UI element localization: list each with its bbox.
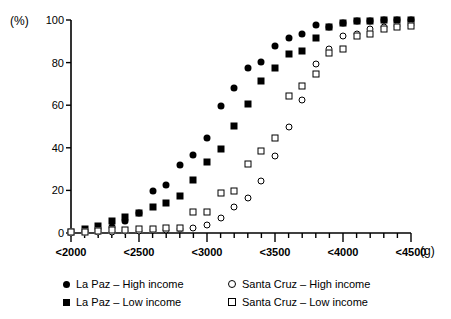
- data-point: [176, 192, 183, 199]
- data-point: [163, 200, 170, 207]
- data-point: [258, 177, 265, 184]
- data-point: [244, 101, 251, 108]
- plot-axes: [0, 0, 451, 319]
- data-point: [367, 18, 374, 25]
- data-point: [231, 85, 238, 92]
- data-point: [340, 20, 347, 27]
- data-point: [176, 224, 183, 231]
- data-point: [353, 32, 360, 39]
- data-point: [217, 103, 224, 110]
- data-point: [163, 182, 170, 189]
- data-point: [122, 226, 129, 233]
- x-tick-label-lt4500: <4500: [396, 246, 427, 258]
- legend-item-3[interactable]: Santa Cruz – Low income: [228, 296, 368, 308]
- data-point: [149, 187, 156, 194]
- data-point: [312, 35, 319, 42]
- open-square-icon: [228, 298, 236, 306]
- data-point: [244, 194, 251, 201]
- data-point: [326, 50, 333, 57]
- data-point: [299, 96, 306, 103]
- filled-circle-icon: [63, 281, 70, 288]
- data-point: [326, 24, 333, 31]
- data-point: [244, 64, 251, 71]
- filled-square-icon: [63, 299, 70, 306]
- data-point: [272, 42, 279, 49]
- legend-item-label: La Paz – Low income: [76, 296, 181, 308]
- data-point: [136, 226, 143, 233]
- legend-item-1[interactable]: La Paz – Low income: [63, 296, 181, 308]
- data-point: [312, 60, 319, 67]
- y-tick-label-60: 60: [40, 99, 64, 111]
- y-tick-label-0: 0: [40, 227, 64, 239]
- data-point: [108, 218, 115, 225]
- y-tick-label-100: 100: [40, 14, 64, 26]
- data-point: [231, 187, 238, 194]
- legend-item-2[interactable]: Santa Cruz – High income: [228, 278, 370, 290]
- data-point: [163, 225, 170, 232]
- legend-item-label: Santa Cruz – High income: [242, 278, 370, 290]
- data-point: [149, 225, 156, 232]
- data-point: [285, 92, 292, 99]
- data-point: [285, 51, 292, 58]
- data-point: [204, 135, 211, 142]
- data-point: [408, 23, 415, 30]
- data-point: [367, 30, 374, 37]
- legend-item-label: Santa Cruz – Low income: [242, 296, 368, 308]
- legend-item-0[interactable]: La Paz – High income: [63, 278, 184, 290]
- data-point: [176, 161, 183, 168]
- data-point: [353, 18, 360, 25]
- data-point: [217, 189, 224, 196]
- data-point: [272, 135, 279, 142]
- data-point: [204, 158, 211, 165]
- data-point: [136, 209, 143, 216]
- x-tick-label-lt2000: <2000: [56, 246, 87, 258]
- data-point: [340, 32, 347, 39]
- data-point: [394, 24, 401, 31]
- data-point: [299, 83, 306, 90]
- data-point: [285, 123, 292, 130]
- x-tick-label-lt2500: <2500: [124, 246, 155, 258]
- chart-container: (%) (g) 020406080100 <2000<2500<3000<350…: [0, 0, 451, 319]
- data-point: [190, 152, 197, 159]
- data-point: [380, 25, 387, 32]
- data-point: [95, 227, 102, 234]
- data-point: [272, 153, 279, 160]
- y-tick-label-80: 80: [40, 57, 64, 69]
- data-point: [108, 227, 115, 234]
- data-point: [217, 214, 224, 221]
- data-point: [204, 221, 211, 228]
- data-point: [190, 209, 197, 216]
- data-point: [81, 228, 88, 235]
- data-point: [68, 229, 75, 236]
- data-point: [231, 123, 238, 130]
- data-point: [190, 224, 197, 231]
- x-tick-label-lt3500: <3500: [260, 246, 291, 258]
- data-point: [285, 35, 292, 42]
- data-point: [231, 204, 238, 211]
- data-point: [258, 58, 265, 65]
- data-point: [312, 71, 319, 78]
- data-point: [190, 176, 197, 183]
- data-point: [299, 47, 306, 54]
- data-point: [244, 161, 251, 168]
- data-point: [122, 214, 129, 221]
- data-point: [299, 30, 306, 37]
- data-point: [149, 204, 156, 211]
- data-point: [340, 45, 347, 52]
- x-tick-label-lt4000: <4000: [328, 246, 359, 258]
- y-tick-label-20: 20: [40, 184, 64, 196]
- open-circle-icon: [228, 280, 236, 288]
- legend-item-label: La Paz – High income: [76, 278, 184, 290]
- data-point: [380, 17, 387, 24]
- data-point: [272, 64, 279, 71]
- data-point: [258, 77, 265, 84]
- data-point: [312, 22, 319, 29]
- data-point: [204, 209, 211, 216]
- data-point: [258, 147, 265, 154]
- data-point: [217, 145, 224, 152]
- y-tick-label-40: 40: [40, 142, 64, 154]
- x-tick-label-lt3000: <3000: [192, 246, 223, 258]
